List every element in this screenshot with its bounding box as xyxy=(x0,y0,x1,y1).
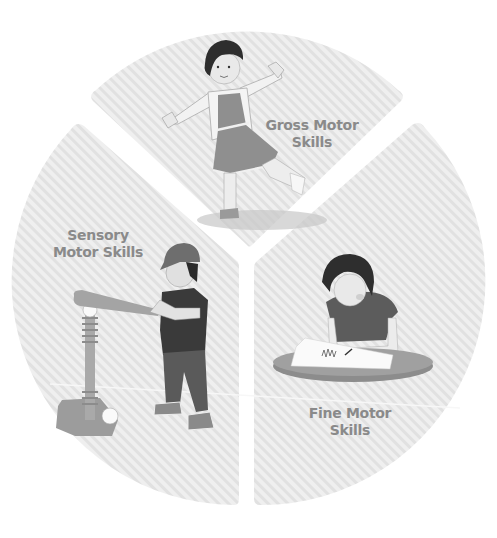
label-fine-motor-line1: Fine Motor xyxy=(309,405,392,421)
shoe-right xyxy=(188,412,214,430)
ball-on-ground xyxy=(102,408,118,424)
standing-leg xyxy=(224,173,236,212)
label-gross-motor-line1: Gross Motor xyxy=(265,117,358,133)
eye-left xyxy=(217,66,219,68)
shadow xyxy=(197,210,327,230)
label-gross-motor-line2: Skills xyxy=(292,134,332,150)
label-fine-motor-line2: Skills xyxy=(330,422,370,438)
eye-right xyxy=(228,66,230,68)
label-sensory-motor-line1: Sensory xyxy=(67,227,129,243)
motor-skills-pie-diagram: Gross Motor Skills Sensory Motor Skills … xyxy=(0,0,497,538)
child-cheek xyxy=(356,294,364,300)
boy-shirt xyxy=(160,288,208,355)
child-head xyxy=(334,274,366,306)
label-sensory-motor-line2: Motor Skills xyxy=(53,244,143,260)
shoe-left xyxy=(154,402,182,415)
